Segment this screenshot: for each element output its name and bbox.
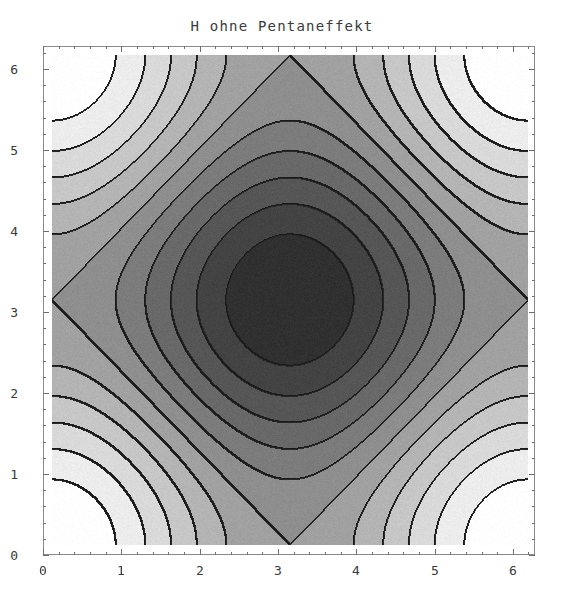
x-axis-minor-tick xyxy=(388,552,389,555)
y-axis-major-tick xyxy=(43,393,49,394)
x-axis-minor-tick xyxy=(74,552,75,555)
x-axis-major-tick-top xyxy=(513,46,514,52)
x-axis-minor-tick-top xyxy=(215,46,216,49)
x-axis-major-tick xyxy=(356,549,357,555)
x-axis-major-tick-top xyxy=(356,46,357,52)
y-axis-minor-tick-right xyxy=(532,442,535,443)
x-axis-minor-tick-top xyxy=(262,46,263,49)
x-axis-minor-tick-top xyxy=(450,46,451,49)
x-axis-minor-tick-top xyxy=(106,46,107,49)
y-axis-minor-tick xyxy=(43,182,46,183)
y-axis-minor-tick-right xyxy=(532,539,535,540)
x-axis-minor-tick xyxy=(215,552,216,555)
x-axis-minor-tick xyxy=(419,552,420,555)
y-axis-minor-tick xyxy=(43,506,46,507)
y-axis-minor-tick-right xyxy=(532,490,535,491)
y-axis-minor-tick xyxy=(43,490,46,491)
x-axis-minor-tick xyxy=(247,552,248,555)
x-axis-minor-tick xyxy=(372,552,373,555)
x-axis-minor-tick-top xyxy=(372,46,373,49)
y-axis-minor-tick xyxy=(43,442,46,443)
x-axis-minor-tick xyxy=(153,552,154,555)
x-axis-minor-tick xyxy=(106,552,107,555)
x-axis-minor-tick-top xyxy=(341,46,342,49)
y-axis-minor-tick xyxy=(43,53,46,54)
y-axis-minor-tick xyxy=(43,361,46,362)
x-axis-minor-tick xyxy=(137,552,138,555)
y-axis-minor-tick xyxy=(43,344,46,345)
x-axis-minor-tick-top xyxy=(231,46,232,49)
y-axis-minor-tick-right xyxy=(532,328,535,329)
y-axis-minor-tick-right xyxy=(532,118,535,119)
y-axis-minor-tick xyxy=(43,101,46,102)
x-axis-major-tick-top xyxy=(43,46,44,52)
y-axis-minor-tick xyxy=(43,134,46,135)
x-axis-tick-label: 3 xyxy=(274,563,282,578)
figure-page: H ohne Pentaneffekt 01234560123456 xyxy=(0,0,564,608)
x-axis-minor-tick xyxy=(497,552,498,555)
x-axis-minor-tick-top xyxy=(90,46,91,49)
x-axis-minor-tick-top xyxy=(59,46,60,49)
x-axis-minor-tick xyxy=(403,552,404,555)
x-axis-minor-tick xyxy=(231,552,232,555)
x-axis-minor-tick xyxy=(168,552,169,555)
y-axis-tick-label: 5 xyxy=(10,143,18,158)
x-axis-minor-tick-top xyxy=(247,46,248,49)
y-axis-minor-tick xyxy=(43,409,46,410)
x-axis-minor-tick-top xyxy=(419,46,420,49)
x-axis-major-tick xyxy=(200,549,201,555)
x-axis-minor-tick xyxy=(309,552,310,555)
y-axis-major-tick-right xyxy=(529,555,535,556)
y-axis-tick-label: 1 xyxy=(10,467,18,482)
y-axis-major-tick xyxy=(43,231,49,232)
y-axis-minor-tick xyxy=(43,166,46,167)
y-axis-major-tick-right xyxy=(529,150,535,151)
y-axis-minor-tick xyxy=(43,215,46,216)
x-axis-major-tick xyxy=(435,549,436,555)
x-axis-minor-tick-top xyxy=(74,46,75,49)
x-axis-major-tick xyxy=(121,549,122,555)
x-axis-major-tick-top xyxy=(121,46,122,52)
x-axis-tick-label: 2 xyxy=(196,563,204,578)
x-axis-major-tick-top xyxy=(278,46,279,52)
x-axis-tick-label: 4 xyxy=(352,563,360,578)
x-axis-minor-tick-top xyxy=(168,46,169,49)
y-axis-minor-tick-right xyxy=(532,458,535,459)
x-axis-minor-tick-top xyxy=(403,46,404,49)
y-axis-tick-label: 3 xyxy=(10,305,18,320)
y-axis-minor-tick-right xyxy=(532,166,535,167)
y-axis-minor-tick-right xyxy=(532,53,535,54)
y-axis-minor-tick-right xyxy=(532,344,535,345)
x-axis-major-tick-top xyxy=(200,46,201,52)
x-axis-minor-tick xyxy=(184,552,185,555)
y-axis-minor-tick-right xyxy=(532,377,535,378)
y-axis-minor-tick-right xyxy=(532,280,535,281)
x-axis-minor-tick-top xyxy=(294,46,295,49)
x-axis-tick-label: 5 xyxy=(431,563,439,578)
y-axis-minor-tick-right xyxy=(532,215,535,216)
contour-density-plot xyxy=(52,55,528,545)
y-axis-minor-tick xyxy=(43,247,46,248)
x-axis-minor-tick-top xyxy=(325,46,326,49)
y-axis-minor-tick-right xyxy=(532,101,535,102)
y-axis-minor-tick-right xyxy=(532,296,535,297)
y-axis-minor-tick xyxy=(43,296,46,297)
y-axis-minor-tick xyxy=(43,328,46,329)
y-axis-minor-tick-right xyxy=(532,361,535,362)
x-axis-minor-tick-top xyxy=(153,46,154,49)
x-axis-tick-label: 1 xyxy=(117,563,125,578)
x-axis-minor-tick xyxy=(466,552,467,555)
page-title: H ohne Pentaneffekt xyxy=(0,18,564,34)
y-axis-minor-tick-right xyxy=(532,85,535,86)
y-axis-minor-tick xyxy=(43,280,46,281)
x-axis-minor-tick-top xyxy=(388,46,389,49)
x-axis-major-tick-top xyxy=(435,46,436,52)
x-axis-minor-tick xyxy=(325,552,326,555)
y-axis-major-tick-right xyxy=(529,474,535,475)
y-axis-minor-tick xyxy=(43,118,46,119)
x-axis-major-tick xyxy=(278,549,279,555)
x-axis-minor-tick-top xyxy=(184,46,185,49)
x-axis-minor-tick xyxy=(262,552,263,555)
y-axis-minor-tick-right xyxy=(532,263,535,264)
y-axis-minor-tick-right xyxy=(532,182,535,183)
